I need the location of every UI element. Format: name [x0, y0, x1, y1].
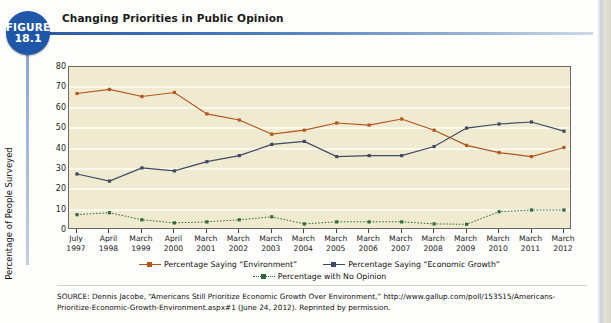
- y-axis-title: Percentage of People Surveyed: [4, 132, 18, 295]
- series-marker: [270, 143, 273, 146]
- series-marker: [303, 129, 306, 132]
- page-title: Changing Priorities in Public Opinion: [62, 12, 284, 24]
- series-marker: [140, 95, 143, 98]
- x-axis-tick: [498, 229, 499, 233]
- legend-label-environment: Percentage Saying “Environment”: [164, 260, 297, 269]
- x-axis-tick: [531, 229, 532, 233]
- y-axis-tick-label: 20: [44, 184, 66, 193]
- page-edge: [597, 0, 611, 323]
- x-axis-tick-label: March2012: [543, 234, 583, 253]
- series-marker: [433, 129, 436, 132]
- y-axis-tick-label: 30: [44, 163, 66, 172]
- x-axis-tick: [173, 229, 174, 233]
- x-axis-tick: [433, 229, 434, 233]
- series-marker: [368, 124, 371, 127]
- series-marker: [75, 213, 78, 216]
- series-line: [77, 122, 564, 181]
- series-marker: [465, 127, 468, 130]
- y-axis-tick-label: 80: [44, 62, 66, 71]
- series-marker: [173, 221, 176, 224]
- title-rule: [47, 32, 593, 35]
- legend-row-secondary: Percentage with No Opinion: [68, 272, 571, 281]
- series-marker: [75, 92, 78, 95]
- legend-item-no-opinion: Percentage with No Opinion: [253, 272, 387, 281]
- series-marker: [498, 210, 501, 213]
- chart-legend: Percentage Saying “Environment” Percenta…: [68, 260, 571, 281]
- series-marker: [173, 169, 176, 172]
- x-axis-tick: [401, 229, 402, 233]
- y-axis-tick-label: 0: [44, 225, 66, 234]
- legend-item-environment: Percentage Saying “Environment”: [139, 260, 297, 269]
- figure-badge-stem: [26, 55, 29, 265]
- x-axis-tick: [141, 229, 142, 233]
- series-marker: [335, 121, 338, 124]
- figure-badge: FIGURE 18.1: [6, 11, 50, 55]
- series-marker: [498, 151, 501, 154]
- legend-marker-environment-icon: [139, 261, 161, 268]
- y-axis-tick-label: 60: [44, 102, 66, 111]
- x-axis-tick: [108, 229, 109, 233]
- y-axis-tick-label: 40: [44, 143, 66, 152]
- series-marker: [335, 220, 338, 223]
- legend-label-no-opinion: Percentage with No Opinion: [278, 272, 387, 281]
- x-axis-tick: [206, 229, 207, 233]
- series-marker: [238, 154, 241, 157]
- series-marker: [173, 91, 176, 94]
- legend-marker-no-opinion-icon: [253, 273, 275, 280]
- series-marker: [562, 146, 565, 149]
- series-marker: [465, 223, 468, 226]
- x-axis-tick: [466, 229, 467, 233]
- series-marker: [400, 154, 403, 157]
- series-marker: [433, 145, 436, 148]
- series-marker: [238, 218, 241, 221]
- plot-area: [68, 66, 571, 229]
- y-axis-tick-label: 10: [44, 204, 66, 213]
- y-axis-tick-label: 70: [44, 82, 66, 91]
- series-marker: [205, 220, 208, 223]
- series-line: [77, 210, 564, 224]
- series-marker: [562, 130, 565, 133]
- legend-row-primary: Percentage Saying “Environment” Percenta…: [68, 260, 571, 269]
- series-marker: [562, 208, 565, 211]
- series-marker: [368, 154, 371, 157]
- series-marker: [108, 211, 111, 214]
- series-marker: [465, 144, 468, 147]
- series-line: [77, 89, 564, 156]
- x-axis-tick: [563, 229, 564, 233]
- x-axis-tick: [303, 229, 304, 233]
- series-marker: [140, 166, 143, 169]
- figure-container: FIGURE 18.1 Changing Priorities in Publi…: [0, 0, 611, 323]
- y-axis-labels: 01020304050607080: [44, 60, 66, 232]
- series-marker: [303, 140, 306, 143]
- x-axis-tick: [336, 229, 337, 233]
- x-axis-tick: [76, 229, 77, 233]
- series-marker: [238, 118, 241, 121]
- series-marker: [270, 133, 273, 136]
- series-marker: [530, 155, 533, 158]
- series-marker: [400, 117, 403, 120]
- legend-marker-economic-growth-icon: [323, 261, 345, 268]
- series-marker: [108, 180, 111, 183]
- series-marker: [335, 155, 338, 158]
- x-axis-labels: July1997April1998March1999April2000March…: [68, 234, 571, 258]
- series-marker: [498, 122, 501, 125]
- x-axis-tick: [238, 229, 239, 233]
- series-marker: [400, 220, 403, 223]
- y-axis-tick-label: 50: [44, 123, 66, 132]
- series-marker: [205, 160, 208, 163]
- series-marker: [368, 220, 371, 223]
- series-marker: [140, 218, 143, 221]
- source-note: SOURCE: Dennis Jacobe, “Americans Still …: [57, 291, 587, 313]
- series-marker: [75, 172, 78, 175]
- series-marker: [108, 88, 111, 91]
- series-marker: [303, 222, 306, 225]
- series-marker: [433, 222, 436, 225]
- series-layer: [69, 67, 572, 230]
- legend-label-economic-growth: Percentage Saying “Economic Growth”: [348, 260, 500, 269]
- series-marker: [530, 208, 533, 211]
- figure-badge-number: 18.1: [14, 33, 41, 45]
- legend-item-economic-growth: Percentage Saying “Economic Growth”: [323, 260, 500, 269]
- figure-badge-label: FIGURE: [6, 22, 51, 33]
- x-axis-tick: [271, 229, 272, 233]
- source-divider: [57, 285, 587, 286]
